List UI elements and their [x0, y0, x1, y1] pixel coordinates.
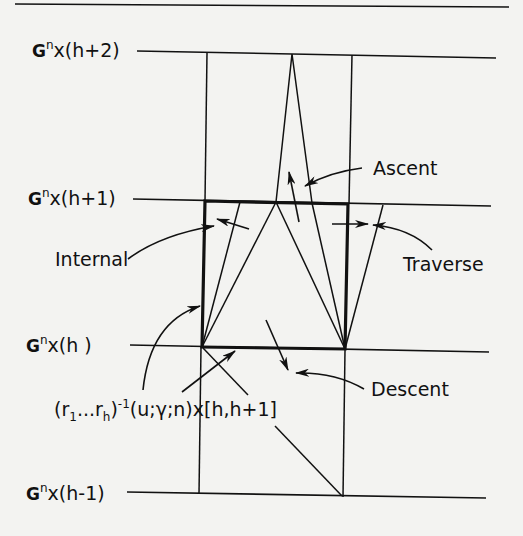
fan-right-3 [345, 205, 383, 349]
descent-direction-arrow [266, 320, 288, 370]
descent-diagonal-lower [275, 426, 342, 496]
annotation-descent: Descent [371, 380, 449, 399]
superscript: n [42, 186, 50, 200]
annotation-ascent: Ascent [373, 159, 438, 178]
annotation-internal: Internal [55, 250, 128, 269]
left-vertical-upper [205, 53, 207, 201]
fan-right-2 [312, 203, 345, 349]
ascent-direction-arrow [289, 172, 299, 222]
superscript: n [46, 38, 54, 52]
cell-label-part2: ...r [77, 398, 103, 420]
level-text: x(h+2) [54, 39, 120, 61]
level-line-h-minus-1 [127, 492, 486, 498]
top-rule [15, 4, 509, 7]
cell-label-sub1: 1 [69, 410, 77, 424]
cell-label-part3: ) [110, 398, 117, 420]
traverse-pointer-arrow [373, 225, 432, 250]
group-symbol: G [32, 41, 46, 61]
cell-label-part1: (r [54, 398, 69, 420]
group-symbol: G [28, 189, 42, 209]
annotation-traverse: Traverse [403, 255, 484, 274]
superscript: n [40, 333, 48, 347]
level-label-h-plus-1: Gnx(h+1) [28, 189, 116, 208]
cell-label: (r1...rh)-1(u;γ;n)x[h,h+1] [54, 398, 277, 423]
cell-label-part4: (u;γ;n)x[h,h+1] [130, 398, 277, 420]
right-vertical-upper [349, 55, 352, 204]
level-text: x(h-1) [48, 482, 105, 504]
descent-pointer-arrow [296, 373, 364, 389]
internal-pointer-arrow [128, 226, 214, 259]
level-label-h-minus-1: Gnx(h-1) [26, 484, 105, 503]
ascent-pointer-arrow [305, 168, 362, 186]
cell-label-sup: -1 [118, 397, 130, 411]
level-label-h: Gnx(h ) [26, 336, 92, 355]
fan-left-2 [202, 202, 276, 347]
cell-label-pointer-arrow-2 [182, 351, 235, 392]
right-vertical-lower [343, 350, 345, 497]
central-cell-square [202, 201, 348, 349]
level-label-h-plus-2: Gnx(h+2) [32, 41, 120, 60]
cell-label-pointer-arrow-1 [143, 306, 200, 390]
group-symbol: G [26, 484, 40, 504]
level-line-h-plus-2 [137, 51, 496, 58]
group-symbol: G [26, 336, 40, 356]
level-text: x(h ) [48, 334, 92, 356]
ascent-peak [276, 54, 312, 203]
level-text: x(h+1) [50, 187, 116, 209]
superscript: n [40, 481, 48, 495]
